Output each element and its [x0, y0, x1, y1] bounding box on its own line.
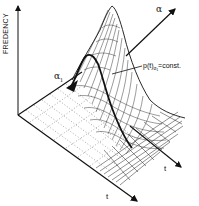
surface-plot-svg: [0, 0, 199, 206]
alpha-axis-arrow: [126, 9, 175, 56]
t-axis-back: [130, 126, 181, 167]
curve-label-leader: [112, 66, 142, 74]
alpha1-label-sub: 1: [60, 77, 63, 83]
curve-label-main: p(t): [143, 62, 154, 69]
curve-label: p(t)α₁=const.: [143, 62, 181, 72]
alpha-axis-label: α: [156, 5, 162, 13]
surface-plot-figure: FREDENCY α α1 p(t)α₁=const. t t: [0, 0, 199, 206]
p-of-t-curve: [70, 55, 132, 148]
alpha1-label: α1: [54, 72, 63, 84]
t-axis-label-front: t: [106, 193, 108, 201]
curve-label-rest: =const.: [158, 62, 181, 69]
t-axis-label-back: t: [164, 165, 166, 173]
y-axis-label: FREDENCY: [2, 13, 9, 54]
